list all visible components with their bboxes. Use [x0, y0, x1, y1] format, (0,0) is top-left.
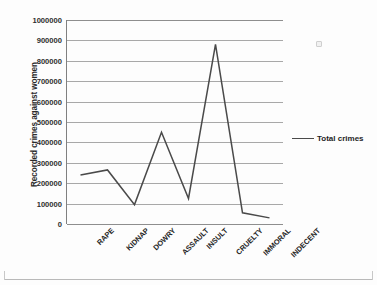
- chart-legend: Total crimes: [292, 134, 364, 143]
- legend-line-swatch: [292, 138, 314, 140]
- y-tick-label-1000000: 1000000: [16, 16, 62, 25]
- page-bottom-rule: [4, 279, 373, 280]
- series-line-total-crimes: [81, 44, 270, 217]
- y-tick-label-500000: 500000: [16, 118, 62, 127]
- x-tick-label-immoral: IMMORAL: [261, 226, 292, 257]
- x-tick-label-cruelty: CRUELTY: [234, 226, 265, 257]
- y-tick-label-400000: 400000: [16, 138, 62, 147]
- y-tick-label-300000: 300000: [16, 158, 62, 167]
- scan-artifact-speck: [316, 41, 322, 47]
- y-tick-label-600000: 600000: [16, 97, 62, 106]
- y-tick-label-100000: 100000: [16, 199, 62, 208]
- series-total-crimes: [67, 20, 283, 224]
- x-axis-tick-labels: RAPEKIDNAPDOWRYASSAULTINSULTCRUELTYIMMOR…: [66, 224, 282, 282]
- x-tick-label-kidnap: KIDNAP: [124, 226, 150, 252]
- y-tick-label-0: 0: [16, 220, 62, 229]
- x-tick-label-dowry: DOWRY: [151, 226, 177, 252]
- y-axis-tick-labels: 0100000200000300000400000500000600000700…: [16, 14, 62, 230]
- y-tick-label-700000: 700000: [16, 77, 62, 86]
- plot-area: [66, 20, 283, 224]
- y-tick-label-800000: 800000: [16, 56, 62, 65]
- page-right-edge: [372, 271, 373, 280]
- x-tick-label-assault: ASSAULT: [180, 226, 211, 257]
- x-tick-label-rape: RAPE: [95, 226, 116, 247]
- legend-label-total-crimes: Total crimes: [317, 134, 364, 143]
- page-left-edge: [4, 271, 5, 280]
- x-tick-label-indecent: INDECENT: [289, 226, 322, 259]
- y-tick-label-200000: 200000: [16, 179, 62, 188]
- y-tick-label-900000: 900000: [16, 36, 62, 45]
- chart-figure: Recorded crimes against women 0100000200…: [0, 0, 377, 285]
